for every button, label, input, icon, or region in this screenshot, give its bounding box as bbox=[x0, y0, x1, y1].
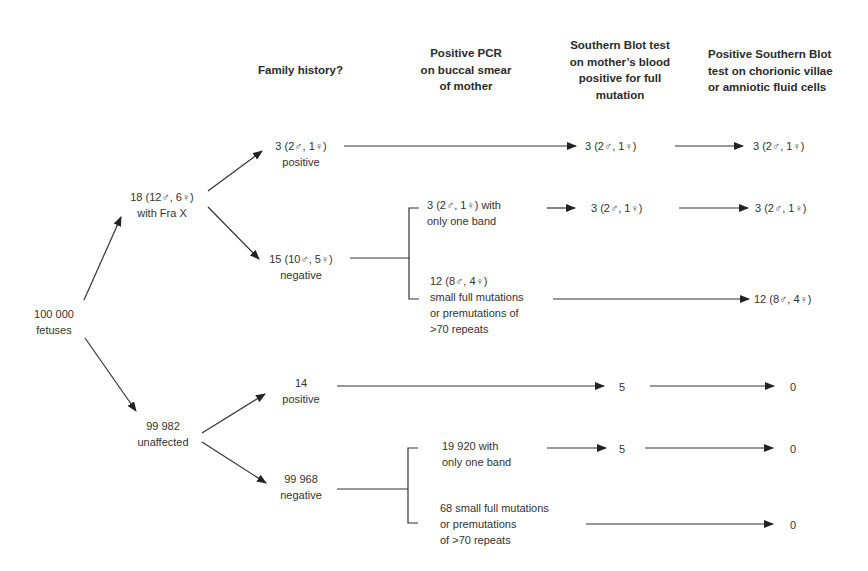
bracket-affected-negative bbox=[409, 208, 419, 299]
node-affected-one-band: 3 (2♂, 1♀) with only one band bbox=[427, 197, 501, 229]
arrow-affected-to-positive bbox=[208, 151, 262, 191]
arrow-root-to-unaffected bbox=[85, 338, 136, 411]
node-unaffected-one-band: 19 920 with only one band bbox=[442, 438, 511, 470]
bracket-unaffected-negative bbox=[408, 448, 418, 523]
node-affected-family-negative: 15 (10♂, 5♀) negative bbox=[260, 251, 342, 283]
node-root-fetuses: 100 000 fetuses bbox=[22, 306, 86, 338]
node-unaffected-small-full-mutations: 68 small full mutations or premutations … bbox=[440, 500, 549, 548]
node-affected-small-southern-fetal: 12 (8♂, 4♀) bbox=[754, 291, 811, 307]
arrow-unaffected-to-positive bbox=[202, 394, 265, 433]
header-southern-blot-mother: Southern Blot test on mother’s blood pos… bbox=[556, 37, 684, 103]
node-unaffected-positive-southern-fetal: 0 bbox=[790, 379, 796, 395]
node-unaffected-family-positive: 14 positive bbox=[270, 375, 332, 407]
arrow-unaffected-to-negative bbox=[202, 442, 266, 483]
node-unaffected-small-southern-fetal: 0 bbox=[790, 517, 796, 533]
node-unaffected-positive-southern-mother: 5 bbox=[619, 379, 625, 395]
node-unaffected: 99 982 unaffected bbox=[126, 418, 200, 450]
node-unaffected-one-band-southern-mother: 5 bbox=[619, 441, 625, 457]
node-affected-one-band-southern-mother: 3 (2♂, 1♀) bbox=[591, 200, 642, 216]
node-affected-one-band-southern-fetal: 3 (2♂, 1♀) bbox=[755, 200, 806, 216]
node-affected-family-positive: 3 (2♂, 1♀) positive bbox=[262, 138, 340, 170]
arrow-affected-to-negative bbox=[208, 207, 259, 259]
node-affected-fra-x: 18 (12♂, 6♀) with Fra X bbox=[116, 189, 208, 221]
arrow-root-to-affected bbox=[84, 217, 121, 300]
node-unaffected-family-negative: 99 968 negative bbox=[268, 471, 334, 503]
header-family-history: Family history? bbox=[258, 62, 343, 79]
node-unaffected-one-band-southern-fetal: 0 bbox=[790, 441, 796, 457]
node-affected-positive-southern-mother: 3 (2♂, 1♀) bbox=[585, 138, 636, 154]
header-positive-pcr: Positive PCR on buccal smear of mother bbox=[406, 45, 526, 95]
node-affected-small-full-mutations: 12 (8♂, 4♀) small full mutations or prem… bbox=[430, 273, 524, 337]
header-southern-blot-fetal: Positive Southern Blot test on chorionic… bbox=[708, 46, 833, 96]
node-affected-positive-southern-fetal: 3 (2♂, 1♀) bbox=[753, 138, 804, 154]
